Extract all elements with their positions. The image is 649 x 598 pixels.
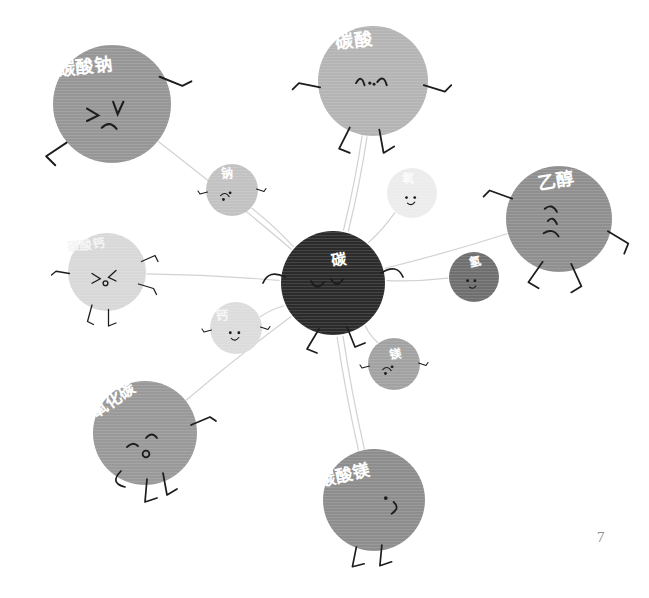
- molecule-node-sodium-carbonate: 碳酸钠: [53, 45, 171, 163]
- molecule-label-magnesium: 镁: [389, 347, 403, 361]
- molecule-label-magnesium-carbonate: 碳酸镁: [317, 462, 372, 490]
- paper-texture: [323, 449, 425, 551]
- molecule-label-carbonic-acid: 碳酸: [335, 30, 374, 52]
- molecule-node-magnesium-carbonate: 碳酸镁: [323, 449, 425, 551]
- connection-line: [369, 213, 395, 243]
- connection-line: [365, 326, 377, 342]
- molecule-node-ethanol: 乙醇: [506, 166, 612, 272]
- molecule-node-magnesium: 镁: [368, 338, 420, 390]
- paper-texture: [368, 338, 420, 390]
- molecule-label-calcium: 钙: [216, 310, 229, 322]
- connection-line: [337, 337, 358, 450]
- molecule-node-sodium: 钠: [206, 164, 258, 216]
- paper-texture: [281, 231, 385, 335]
- connection-line: [252, 208, 293, 246]
- molecule-label-ethanol: 乙醇: [536, 169, 576, 193]
- illustration-page: 碳酸钠碳酸乙醇碳酸钙二氧化碳碳酸镁钠氧氢钙镁碳 7: [0, 0, 649, 598]
- connection-line: [348, 137, 367, 231]
- molecule-label-sodium-carbonate: 碳酸钠: [56, 55, 113, 79]
- molecule-label-carbon-dioxide: 二氧化碳: [75, 380, 139, 430]
- paper-texture: [318, 26, 428, 136]
- connection-line: [343, 336, 364, 449]
- connection-line: [147, 274, 279, 280]
- molecule-node-hydrogen: 氢: [449, 252, 499, 302]
- molecule-label-calcium-carbonate: 碳酸钙: [67, 237, 105, 252]
- connection-line: [343, 136, 362, 230]
- molecule-node-calcium-carbonate: 碳酸钙: [68, 233, 146, 311]
- molecule-node-carbon-dioxide: 二氧化碳: [93, 381, 197, 485]
- molecule-label-sodium: 钠: [221, 168, 234, 180]
- molecule-node-oxygen: 氧: [387, 168, 437, 218]
- molecule-label-carbon: 碳: [330, 250, 347, 267]
- molecule-label-oxygen: 氧: [402, 173, 415, 185]
- molecule-node-calcium: 钙: [210, 302, 262, 354]
- molecule-node-carbonic-acid: 碳酸: [318, 26, 428, 136]
- molecule-label-hydrogen: 氢: [468, 255, 483, 269]
- molecule-node-carbon: 碳: [281, 231, 385, 335]
- connection-line: [260, 306, 284, 317]
- page-number: 7: [597, 529, 605, 546]
- connection-line: [387, 278, 448, 281]
